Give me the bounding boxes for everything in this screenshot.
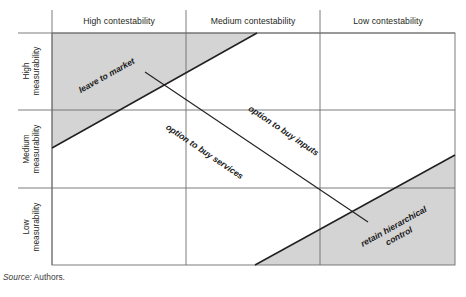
svg-text:measurability: measurability — [31, 46, 41, 96]
svg-text:High: High — [21, 62, 31, 79]
svg-text:Low: Low — [21, 218, 31, 234]
row-header-medium-measurability: Medium measurability — [21, 124, 41, 174]
svg-text:measurability: measurability — [31, 202, 41, 252]
source-note-value: Authors. — [32, 272, 65, 282]
column-header-medium-contestability: Medium contestability — [211, 16, 296, 26]
column-header-low-contestability: Low contestability — [353, 16, 423, 26]
svg-text:Medium: Medium — [21, 134, 31, 164]
svg-text:option to buy inputs: option to buy inputs — [247, 103, 321, 158]
figure-root: High contestability Medium contestabilit… — [0, 0, 466, 297]
column-header-high-contestability: High contestability — [83, 16, 155, 26]
descending-leader-line — [145, 72, 368, 222]
zone-label-option-to-buy-inputs: option to buy inputs — [247, 103, 321, 158]
svg-text:measurability: measurability — [31, 124, 41, 174]
row-header-low-measurability: Low measurability — [21, 202, 41, 252]
row-header-high-measurability: High measurability — [21, 46, 41, 96]
source-note-label: Source: — [3, 272, 32, 282]
source-note: Source: Authors. — [3, 272, 65, 282]
matrix-diagram: High contestability Medium contestabilit… — [0, 0, 466, 297]
